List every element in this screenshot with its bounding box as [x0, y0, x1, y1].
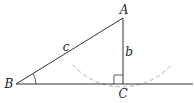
vertex-label-a: A [120, 4, 129, 16]
right-angle-marker [114, 75, 123, 84]
angle-b-arc-marker [33, 74, 36, 85]
triangle-diagram [0, 0, 194, 103]
side-label-c: c [63, 41, 70, 53]
side-label-b: b [125, 46, 133, 58]
vertex-label-c: C [118, 88, 127, 100]
vertex-label-b: B [5, 78, 14, 90]
